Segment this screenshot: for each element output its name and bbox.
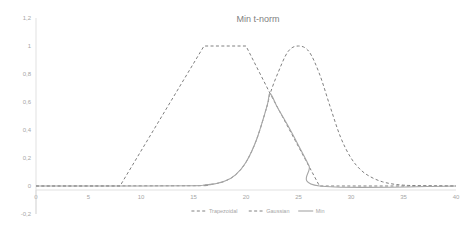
x-tick-label: 35: [400, 194, 407, 200]
x-tick-label: 25: [295, 194, 302, 200]
legend-label-min[interactable]: Min: [316, 208, 325, 214]
y-tick-label: 0,8: [23, 71, 32, 77]
y-tick-label: 0,6: [23, 99, 32, 105]
series-min: [36, 94, 456, 188]
min-t-norm-chart: -0,200,20,40,60,811,2 0510152025303540 M…: [0, 0, 465, 230]
y-axis-tick-labels: -0,200,20,40,60,811,2: [21, 15, 32, 217]
legend-label-trapezoidal[interactable]: Trapezoidal: [209, 208, 238, 214]
chart-title: Min t-norm: [236, 14, 279, 24]
y-tick-label: 1: [28, 43, 32, 49]
chart-series-group: [36, 46, 456, 188]
x-tick-label: 10: [138, 194, 145, 200]
y-tick-label: 0: [28, 183, 32, 189]
x-tick-label: 40: [453, 194, 460, 200]
x-axis-tick-labels: 0510152025303540: [34, 190, 460, 214]
y-tick-label: 0,2: [23, 155, 32, 161]
x-tick-label: 15: [190, 194, 197, 200]
chart-container: -0,200,20,40,60,811,2 0510152025303540 M…: [0, 0, 465, 230]
y-tick-label: 0,4: [23, 127, 32, 133]
chart-legend: TrapezoidalGaussianMin: [191, 208, 324, 214]
y-tick-label: -0,2: [21, 211, 32, 217]
series-gaussian: [36, 46, 456, 186]
x-tick-label: 5: [87, 194, 91, 200]
legend-label-gaussian[interactable]: Gaussian: [266, 208, 289, 214]
x-tick-label: 20: [243, 194, 250, 200]
y-tick-label: 1,2: [23, 15, 32, 21]
series-trapezoidal: [36, 46, 456, 186]
x-tick-label: 30: [348, 194, 355, 200]
